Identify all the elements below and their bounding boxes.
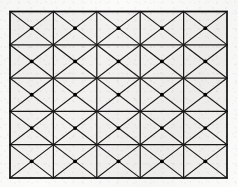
- cell-center-dot: [160, 60, 164, 64]
- cell-center-dot: [160, 159, 164, 163]
- cell-center-dot: [30, 26, 34, 30]
- cell-center-dot: [73, 126, 77, 130]
- cell-center-dot: [203, 126, 207, 130]
- cell-center-dot: [160, 126, 164, 130]
- cell-center-dot: [30, 159, 34, 163]
- cell-center-dot: [117, 126, 121, 130]
- cell-center-dot: [73, 93, 77, 97]
- figure-canvas: [0, 0, 238, 187]
- cell-center-dot: [203, 159, 207, 163]
- cell-center-dot: [160, 93, 164, 97]
- cell-center-dot: [117, 26, 121, 30]
- cell-center-dot: [30, 93, 34, 97]
- cell-center-dot: [203, 26, 207, 30]
- cell-center-dot: [73, 159, 77, 163]
- cell-center-dot: [203, 60, 207, 64]
- cell-center-dot: [73, 26, 77, 30]
- cell-center-dot: [73, 60, 77, 64]
- cell-center-dot: [30, 126, 34, 130]
- cell-center-dot: [117, 159, 121, 163]
- cell-center-dot: [117, 60, 121, 64]
- cell-center-dot: [30, 60, 34, 64]
- cell-center-dot: [203, 93, 207, 97]
- cell-center-dot: [117, 93, 121, 97]
- lattice-diagram: [0, 0, 238, 187]
- cell-center-dot: [160, 26, 164, 30]
